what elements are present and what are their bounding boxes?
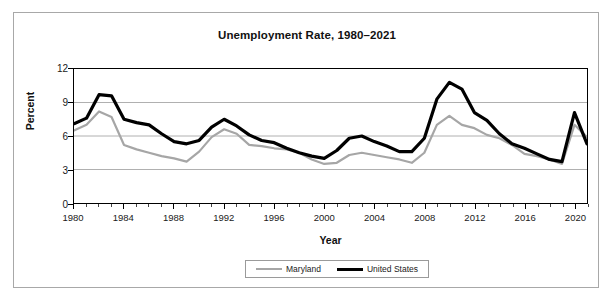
x-axis-major-tick: [324, 204, 325, 209]
x-axis-minor-tick: [161, 204, 162, 207]
x-axis-tick-label: 1992: [204, 212, 244, 223]
x-axis-minor-tick: [86, 204, 87, 207]
x-axis-minor-tick: [550, 204, 551, 207]
x-axis-tick-label: 2004: [354, 212, 394, 223]
x-axis-minor-tick: [500, 204, 501, 207]
x-axis-minor-tick: [199, 204, 200, 207]
legend-item-maryland[interactable]: Maryland: [256, 264, 321, 274]
x-axis-minor-tick: [299, 204, 300, 207]
y-axis-title: Percent: [24, 76, 36, 146]
y-axis-tick-label: 6: [46, 131, 68, 142]
legend-swatch-icon: [337, 268, 363, 271]
x-axis-minor-tick: [450, 204, 451, 207]
x-axis-minor-tick: [249, 204, 250, 207]
x-axis-minor-tick: [400, 204, 401, 207]
x-axis-tick-labels: 1980198419881992199620002004200820122016…: [73, 212, 588, 226]
x-axis-tick-label: 1984: [103, 212, 143, 223]
x-axis-minor-tick: [362, 204, 363, 207]
x-axis-tick-label: 1996: [254, 212, 294, 223]
y-axis-tick-label: 3: [46, 165, 68, 176]
x-axis-minor-tick: [111, 204, 112, 207]
x-axis-minor-tick: [412, 204, 413, 207]
x-axis-minor-tick: [186, 204, 187, 207]
x-axis-minor-tick: [513, 204, 514, 207]
legend-label: Maryland: [286, 264, 321, 274]
x-axis-minor-tick: [488, 204, 489, 207]
x-axis-major-tick: [274, 204, 275, 209]
x-axis-major-tick: [123, 204, 124, 209]
y-axis-tick-label: 0: [46, 199, 68, 210]
x-axis-minor-tick: [538, 204, 539, 207]
x-axis-major-tick: [525, 204, 526, 209]
x-axis-tick-marks: [73, 204, 588, 211]
x-axis-minor-tick: [136, 204, 137, 207]
x-axis-minor-tick: [349, 204, 350, 207]
x-axis-major-tick: [475, 204, 476, 209]
x-axis-minor-tick: [437, 204, 438, 207]
x-axis-major-tick: [224, 204, 225, 209]
y-axis-tick-labels: 036912: [42, 68, 68, 204]
x-axis-minor-tick: [387, 204, 388, 207]
chart-frame: Unemployment Rate, 1980–2021 Percent 036…: [13, 12, 599, 288]
x-axis-minor-tick: [337, 204, 338, 207]
x-axis-title: Year: [73, 234, 588, 246]
legend-label: United States: [367, 264, 418, 274]
x-axis-major-tick: [575, 204, 576, 209]
series-line-united-states: [74, 82, 587, 161]
x-axis-minor-tick: [462, 204, 463, 207]
x-axis-minor-tick: [588, 204, 589, 207]
x-axis-minor-tick: [312, 204, 313, 207]
x-axis-tick-label: 1980: [53, 212, 93, 223]
x-axis-minor-tick: [261, 204, 262, 207]
x-axis-tick-label: 2016: [505, 212, 545, 223]
legend-item-united-states[interactable]: United States: [337, 264, 418, 274]
chart-legend: MarylandUnited States: [245, 260, 429, 278]
x-axis-major-tick: [73, 204, 74, 209]
x-axis-minor-tick: [287, 204, 288, 207]
x-axis-minor-tick: [236, 204, 237, 207]
x-axis-major-tick: [173, 204, 174, 209]
plot-svg: [74, 69, 587, 203]
x-axis-tick-label: 2008: [405, 212, 445, 223]
x-axis-tick-label: 1988: [153, 212, 193, 223]
x-axis-tick-label: 2000: [304, 212, 344, 223]
y-axis-tick-label: 12: [46, 63, 68, 74]
x-axis-tick-label: 2012: [455, 212, 495, 223]
legend-swatch-icon: [256, 268, 282, 270]
chart-title: Unemployment Rate, 1980–2021: [14, 29, 600, 41]
plot-area: [73, 68, 588, 204]
x-axis-major-tick: [374, 204, 375, 209]
x-axis-major-tick: [425, 204, 426, 209]
x-axis-minor-tick: [98, 204, 99, 207]
y-axis-tick-label: 9: [46, 97, 68, 108]
x-axis-minor-tick: [148, 204, 149, 207]
x-axis-minor-tick: [563, 204, 564, 207]
x-axis-minor-tick: [211, 204, 212, 207]
x-axis-tick-label: 2020: [555, 212, 595, 223]
